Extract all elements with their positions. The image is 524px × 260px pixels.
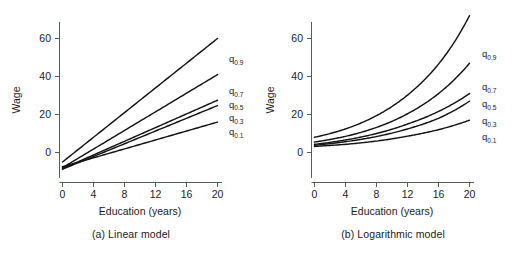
x-tick-label-8: 8 bbox=[122, 188, 128, 200]
x-tick-label-20: 20 bbox=[212, 188, 224, 200]
series-curve-q0.9 bbox=[315, 16, 470, 138]
x-axis-title: Education (years) bbox=[351, 205, 433, 217]
y-tick-label-40: 40 bbox=[291, 70, 303, 82]
logarithmic-model-plot: 60 40 20 0 Wage 0 4 8 12 16 20 Education… bbox=[262, 0, 524, 228]
series-labels: q0.9 q0.7 q0.5 q0.3 q0.1 bbox=[229, 53, 244, 139]
panel-linear-model: 60 40 20 0 Wage 0 4 8 12 16 20 Education… bbox=[0, 0, 262, 260]
y-tick-label-40: 40 bbox=[39, 70, 51, 82]
panel-b-caption: (b) Logarithmic model bbox=[262, 228, 524, 240]
series-label-q0.3: q0.3 bbox=[482, 115, 497, 128]
series-label-q0.1: q0.1 bbox=[482, 131, 497, 144]
linear-model-plot: 60 40 20 0 Wage 0 4 8 12 16 20 Education… bbox=[0, 0, 262, 228]
series-label-q0.7: q0.7 bbox=[229, 85, 244, 98]
x-tick-label-12: 12 bbox=[402, 188, 414, 200]
x-tick-label-12: 12 bbox=[150, 188, 162, 200]
panel-a-caption: (a) Linear model bbox=[0, 228, 262, 240]
y-tick-label-60: 60 bbox=[39, 32, 51, 44]
y-tick-label-0: 0 bbox=[297, 146, 303, 158]
y-axis-title: Wage bbox=[10, 86, 22, 113]
series-label-q0.3: q0.3 bbox=[229, 112, 244, 125]
series-group bbox=[63, 39, 218, 170]
series-line-q0.9 bbox=[63, 39, 218, 163]
y-tick-label-0: 0 bbox=[45, 146, 51, 158]
x-tick-label-4: 4 bbox=[91, 188, 97, 200]
x-tick-label-8: 8 bbox=[374, 188, 380, 200]
series-label-q0.9: q0.9 bbox=[229, 53, 244, 66]
series-label-q0.5: q0.5 bbox=[229, 99, 244, 112]
series-group bbox=[315, 16, 470, 147]
x-tick-label-0: 0 bbox=[60, 188, 66, 200]
figure-container: 60 40 20 0 Wage 0 4 8 12 16 20 Education… bbox=[0, 0, 524, 260]
series-label-q0.5: q0.5 bbox=[482, 98, 497, 111]
panel-logarithmic-model: 60 40 20 0 Wage 0 4 8 12 16 20 Education… bbox=[262, 0, 524, 260]
y-axis-title: Wage bbox=[264, 86, 276, 113]
series-line-q0.7 bbox=[63, 75, 218, 168]
series-curve-q0.5 bbox=[315, 94, 470, 145]
series-line-q0.1 bbox=[63, 122, 218, 167]
series-line-q0.5 bbox=[63, 100, 218, 168]
y-tick-label-20: 20 bbox=[39, 108, 51, 120]
x-tick-label-16: 16 bbox=[181, 188, 193, 200]
series-labels: q0.9 q0.7 q0.5 q0.3 q0.1 bbox=[482, 48, 497, 144]
series-label-q0.7: q0.7 bbox=[482, 81, 497, 94]
x-tick-label-20: 20 bbox=[464, 188, 476, 200]
x-tick-label-16: 16 bbox=[433, 188, 445, 200]
y-tick-label-60: 60 bbox=[291, 32, 303, 44]
x-tick-label-4: 4 bbox=[343, 188, 349, 200]
x-tick-label-0: 0 bbox=[312, 188, 318, 200]
series-label-q0.9: q0.9 bbox=[482, 48, 497, 61]
series-curve-q0.7 bbox=[315, 63, 470, 142]
series-label-q0.1: q0.1 bbox=[229, 126, 244, 139]
x-axis-title: Education (years) bbox=[99, 205, 181, 217]
y-tick-label-20: 20 bbox=[291, 108, 303, 120]
